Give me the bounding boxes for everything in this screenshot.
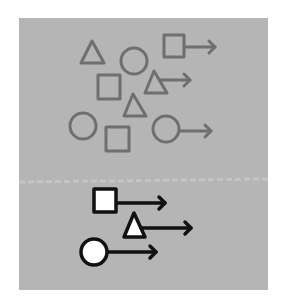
square-shape xyxy=(94,189,116,212)
gray-panel xyxy=(19,18,268,290)
shapes-diagram xyxy=(0,0,284,305)
circle-shape xyxy=(81,239,107,265)
